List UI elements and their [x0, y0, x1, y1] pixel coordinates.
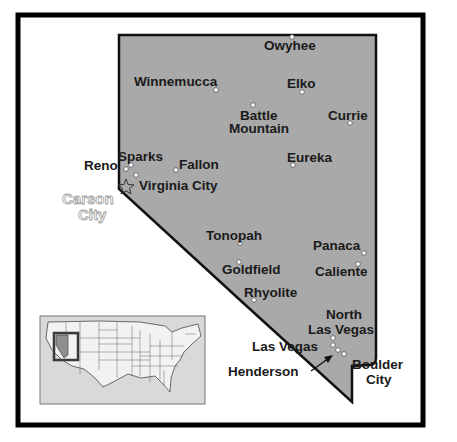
us-inset-map — [40, 316, 205, 404]
dot-reno — [124, 167, 129, 172]
label-goldfield: Goldfield — [222, 262, 281, 277]
label-las-vegas: Las Vegas — [252, 339, 318, 354]
dot-fallon — [174, 168, 179, 173]
label-eureka: Eureka — [287, 150, 333, 165]
label-boulder-city-2: City — [366, 372, 392, 387]
dot-virginia-city — [134, 173, 139, 178]
label-north-las-vegas-1: North — [326, 307, 362, 322]
dot-las-vegas — [331, 343, 336, 348]
label-virginia-city: Virginia City — [139, 178, 218, 193]
label-henderson: Henderson — [228, 364, 299, 379]
dot-battle-mountain — [251, 103, 256, 108]
label-carson-city-1: Carson — [62, 190, 114, 207]
label-boulder-city-1: Boulder — [352, 357, 404, 372]
label-sparks: Sparks — [118, 149, 163, 164]
dot-boulder-city — [342, 352, 347, 357]
label-carson-city-2: City — [78, 206, 107, 223]
label-owyhee: Owyhee — [264, 38, 316, 53]
dot-henderson — [336, 348, 341, 353]
label-currie: Currie — [328, 108, 368, 123]
label-battle-mountain-2: Mountain — [229, 121, 289, 136]
label-elko: Elko — [287, 76, 316, 91]
label-panaca: Panaca — [313, 238, 361, 253]
label-caliente: Caliente — [315, 264, 368, 279]
label-reno: Reno — [84, 158, 118, 173]
label-winnemucca: Winnemucca — [134, 74, 218, 89]
nevada-map: Owyhee Winnemucca Elko Battle Mountain C… — [0, 0, 457, 442]
label-fallon: Fallon — [179, 157, 219, 172]
label-tonopah: Tonopah — [206, 228, 262, 243]
dot-panaca — [362, 251, 367, 256]
label-north-las-vegas-2: Las Vegas — [308, 322, 374, 337]
label-rhyolite: Rhyolite — [244, 285, 298, 300]
